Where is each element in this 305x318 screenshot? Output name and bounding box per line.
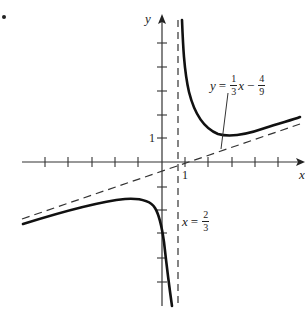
fraction-four-ninths: 4 9 [258,74,265,97]
annotation-pointer [221,93,228,149]
fraction-one-third: 1 3 [230,74,237,97]
y-axis-label: y [145,12,151,25]
fraction-two-thirds: 2 3 [202,210,209,233]
y-tick-label-1: 1 [149,132,155,144]
eq-minus: − [247,78,254,94]
slant-asymptote-equation: y = 1 3 x − 4 9 [210,74,266,97]
x-tick-label-1: 1 [182,169,188,181]
eq-equals: = [219,78,226,94]
eq-lhs: x [182,214,188,230]
x-axis-label: x [299,168,305,181]
eq-var: x [238,78,244,94]
curve-left-branch [23,199,172,306]
graph-canvas [0,0,305,318]
eq-lhs: y [210,78,216,94]
vertical-asymptote-equation: x = 2 3 [182,210,210,233]
eq-equals: = [191,214,198,230]
